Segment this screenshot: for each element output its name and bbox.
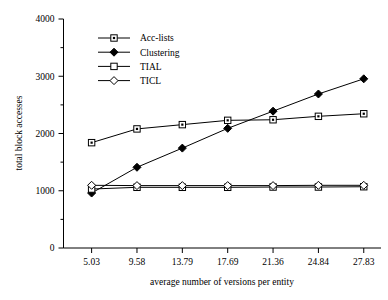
data-point-marker bbox=[270, 117, 276, 123]
y-tick-label: 1000 bbox=[36, 186, 55, 196]
x-tick-label: 9.58 bbox=[129, 257, 146, 267]
data-point-marker bbox=[134, 126, 140, 132]
y-tick-label: 0 bbox=[50, 243, 55, 253]
legend-label: TIAL bbox=[140, 62, 162, 72]
legend-label: TICL bbox=[140, 76, 161, 86]
x-tick-label: 17.69 bbox=[217, 257, 239, 267]
y-axis-title: total block accesses bbox=[14, 95, 24, 170]
data-point-marker bbox=[111, 63, 117, 69]
data-point-marker bbox=[224, 117, 230, 123]
y-tick-label: 4000 bbox=[36, 14, 55, 24]
data-point-marker bbox=[179, 121, 185, 127]
line-chart: 01000200030004000 5.039.5813.7917.6921.3… bbox=[0, 0, 388, 300]
x-tick-label: 21.36 bbox=[262, 257, 284, 267]
legend-label: Acc-lists bbox=[140, 33, 174, 43]
x-axis-title: average number of versions per entity bbox=[150, 277, 294, 287]
chart-background bbox=[0, 0, 388, 300]
chart-canvas: 01000200030004000 5.039.5813.7917.6921.3… bbox=[0, 0, 388, 300]
y-tick-label: 2000 bbox=[36, 129, 55, 139]
x-tick-label: 5.03 bbox=[83, 257, 100, 267]
data-point-marker bbox=[361, 111, 367, 117]
data-point-marker bbox=[111, 35, 117, 41]
y-tick-label: 3000 bbox=[36, 72, 55, 82]
legend-label: Clustering bbox=[140, 48, 180, 58]
x-tick-label: 24.84 bbox=[308, 257, 330, 267]
data-point-marker bbox=[315, 113, 321, 119]
x-tick-label: 13.79 bbox=[172, 257, 194, 267]
x-tick-label: 27.83 bbox=[353, 257, 375, 267]
data-point-marker bbox=[88, 139, 94, 145]
